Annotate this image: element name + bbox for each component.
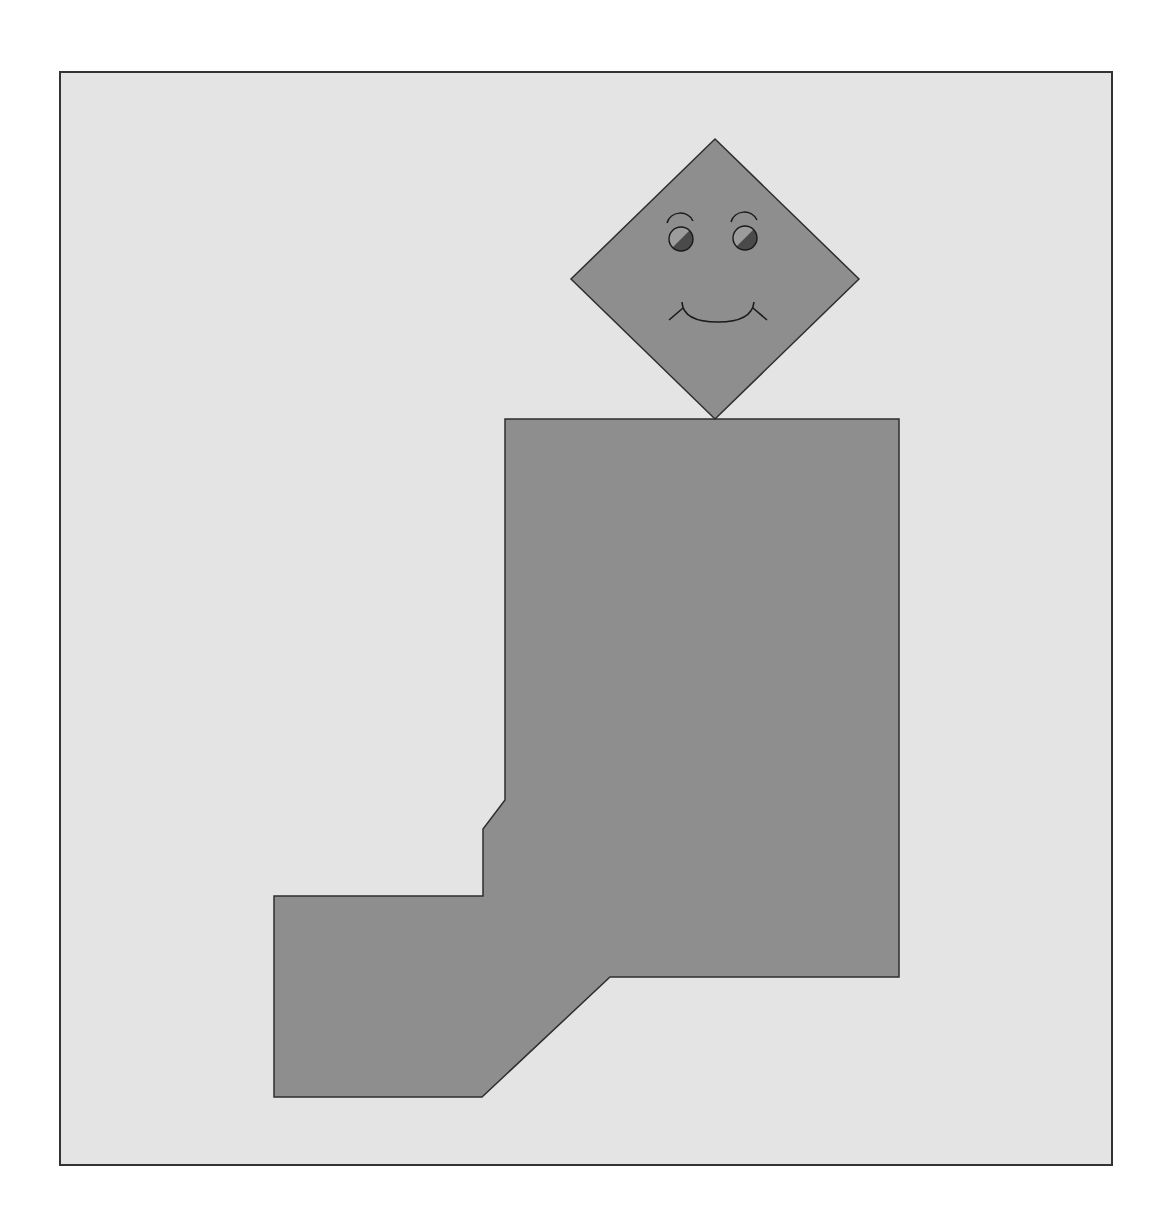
tangram-figure-canvas [0,0,1176,1227]
